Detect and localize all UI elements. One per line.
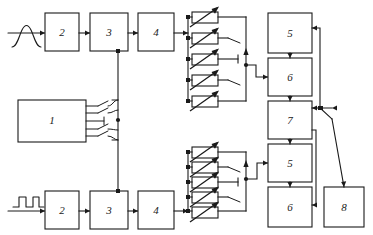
switch-contact-4-arm — [98, 124, 108, 129]
input-top-waveform — [8, 26, 45, 48]
block-3-top: 3 — [90, 13, 128, 51]
block-2-top-label: 2 — [59, 26, 65, 38]
switch-contact-4-curve — [108, 129, 118, 130]
atten-bottom-element-3[interactable] — [192, 177, 218, 188]
arrow-b5b-to-b6b — [287, 182, 292, 187]
arrow-b5t-to-b6t — [287, 53, 292, 58]
atten-bottom-node-4 — [186, 195, 190, 199]
block-4-bottom: 4 — [138, 191, 174, 229]
block-2-bottom: 2 — [45, 191, 79, 229]
arrow-into-block-6-bottom — [312, 202, 317, 207]
arrow-atten-bottom-collector — [243, 160, 248, 167]
arrow-into-block-2-bottom — [40, 208, 45, 213]
block-2-bottom-label: 2 — [59, 204, 65, 216]
junction-block-3-top — [116, 49, 120, 53]
atten-top-element-2-switch-arm[interactable] — [228, 38, 240, 43]
atten-top-element-5[interactable] — [192, 96, 218, 107]
input-bottom-waveform — [8, 197, 45, 211]
atten-top-node-2 — [186, 36, 190, 40]
block-4-bottom-label: 4 — [153, 204, 159, 216]
wire-b7-to-b6-bottom — [312, 130, 316, 205]
block-3-bottom: 3 — [90, 191, 128, 229]
atten-top-element-1[interactable] — [192, 12, 218, 23]
block-1-label: 1 — [49, 114, 55, 126]
atten-bottom-element-2-switch-arm[interactable] — [228, 167, 240, 172]
arrow-feedback-throw — [332, 105, 337, 110]
arrow-into-block-5-bottom — [263, 160, 268, 165]
switch-contact-2-curve — [108, 110, 118, 113]
block-7-label: 7 — [287, 114, 293, 126]
atten-bottom-node-3 — [186, 180, 190, 184]
arrow-into-block-4-bottom — [133, 208, 138, 213]
block-3-top-label: 3 — [105, 26, 112, 38]
arrow-into-block-7-right — [312, 105, 317, 110]
atten-top-element-2[interactable] — [192, 33, 218, 44]
switch-contact-5-curve — [108, 136, 118, 140]
arrow-into-block-4-top — [133, 30, 138, 35]
block-5-bottom: 5 — [268, 144, 312, 182]
block-6-bottom: 6 — [268, 187, 312, 227]
atten-bottom-element-2[interactable] — [192, 162, 218, 173]
wire-switch-to-block-8 — [332, 119, 344, 187]
atten-bottom-element-4-switch-arm[interactable] — [228, 197, 240, 202]
atten-top-node-3 — [186, 57, 190, 61]
block-5-top: 5 — [268, 13, 312, 53]
wire-atten-top-to-block-6-top — [246, 65, 268, 77]
switch-contact-1-arm — [98, 101, 108, 106]
block-5-bottom-label: 5 — [287, 157, 293, 169]
atten-bottom-element-4[interactable] — [192, 192, 218, 203]
block-2-top: 2 — [45, 13, 79, 51]
switch-bank-block-1[interactable] — [86, 100, 118, 140]
block-3-bottom-label: 3 — [105, 204, 112, 216]
atten-bottom-node-5 — [186, 209, 190, 213]
arrow-b6t-to-b7 — [287, 96, 292, 101]
arrow-into-block-2-top — [40, 30, 45, 35]
block-8: 8 — [324, 187, 364, 227]
atten-top-element-4[interactable] — [192, 75, 218, 86]
attenuator-array-bottom[interactable] — [186, 142, 246, 223]
atten-top-node-1 — [186, 15, 190, 19]
block-5-top-label: 5 — [287, 27, 293, 39]
switch-contact-2-arm — [98, 108, 108, 113]
arrow-into-block-5-top — [312, 25, 317, 30]
block-6-bottom-label: 6 — [287, 201, 293, 213]
arrow-into-atten-top — [183, 30, 188, 35]
block-diagram: 2 3 4 2 3 — [0, 0, 373, 235]
block-6-top: 6 — [268, 58, 312, 96]
wire-feedback-loop — [312, 28, 332, 108]
block-4-top: 4 — [138, 13, 174, 51]
atten-bottom-node-1 — [186, 150, 190, 154]
arrow-b7-to-b5b — [287, 139, 292, 144]
arrow-into-block-3-bottom — [85, 208, 90, 213]
atten-top-element-3[interactable] — [192, 54, 218, 65]
block-7: 7 — [268, 101, 312, 139]
block-4-top-label: 4 — [153, 26, 159, 38]
arrow-atten-top-collector — [243, 48, 248, 55]
atten-bottom-element-5[interactable] — [192, 207, 218, 218]
block-6-top-label: 6 — [287, 71, 293, 83]
switch-contact-5-arm — [98, 131, 108, 136]
junction-dot-switchbus — [116, 118, 120, 122]
atten-top-element-4-switch-arm[interactable] — [228, 80, 240, 85]
attenuator-array-top[interactable] — [186, 7, 246, 112]
switch-mode-arm[interactable] — [320, 108, 332, 119]
arrow-into-block-6-top — [263, 74, 268, 79]
wire-atten-bottom-to-block-5-bottom — [246, 163, 268, 179]
atten-bottom-element-1[interactable] — [192, 147, 218, 158]
switch-contact-1-curve — [108, 100, 118, 106]
arrow-into-block-8 — [341, 181, 346, 187]
atten-bottom-node-2 — [186, 165, 190, 169]
atten-top-node-5 — [186, 99, 190, 103]
block-1: 1 — [18, 100, 86, 142]
junction-block-3-bottom — [116, 189, 120, 193]
arrow-into-block-3-top — [85, 30, 90, 35]
diagram-canvas: 2 3 4 2 3 — [0, 0, 373, 235]
atten-top-node-4 — [186, 78, 190, 82]
block-8-label: 8 — [341, 201, 347, 213]
